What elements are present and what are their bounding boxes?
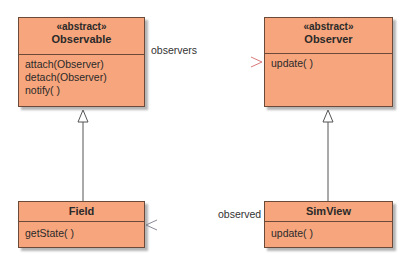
label-observed: observed	[218, 208, 261, 220]
method-update: update( )	[271, 227, 392, 240]
class-header: Field	[19, 202, 144, 222]
method-list: attach(Observer) detach(Observer) notify…	[19, 55, 144, 97]
method-update: update( )	[271, 57, 392, 70]
class-simview[interactable]: SimView update( )	[264, 201, 393, 248]
generalization-simview-observer	[323, 110, 333, 201]
class-observer[interactable]: «abstract» Observer update( )	[264, 17, 393, 107]
class-field[interactable]: Field getState( )	[18, 201, 145, 248]
method-attach: attach(Observer)	[25, 58, 144, 71]
class-header: «abstract» Observable	[19, 18, 144, 55]
class-name: Field	[19, 205, 144, 218]
method-detach: detach(Observer)	[25, 71, 144, 84]
class-name: Observer	[265, 33, 392, 46]
dependency-observers	[145, 57, 262, 67]
class-name: Observable	[19, 33, 144, 46]
stereotype-label: «abstract»	[19, 21, 144, 33]
class-observable[interactable]: «abstract» Observable attach(Observer) d…	[18, 17, 145, 107]
class-header: «abstract» Observer	[265, 18, 392, 54]
class-header: SimView	[265, 202, 392, 222]
method-notify: notify( )	[25, 84, 144, 97]
uml-diagram-canvas: «abstract» Observable attach(Observer) d…	[0, 0, 411, 266]
method-getstate: getState( )	[25, 227, 144, 240]
class-name: SimView	[265, 205, 392, 218]
method-list: update( )	[265, 222, 392, 240]
method-list: getState( )	[19, 222, 144, 240]
generalization-field-observable	[78, 110, 88, 201]
dependency-observed	[146, 220, 263, 230]
label-observers: observers	[151, 44, 197, 56]
method-list: update( )	[265, 54, 392, 70]
stereotype-label: «abstract»	[265, 21, 392, 33]
